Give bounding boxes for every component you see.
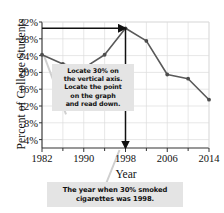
instruction-callout-line: on the graph <box>54 92 132 100</box>
y-tick-label: 28% <box>19 33 38 44</box>
instruction-callout: Locate 30% onthe vertical axis.Locate th… <box>52 64 134 111</box>
answer-callout-line: The year when 30% smoked <box>50 186 180 195</box>
instruction-callout-line: Locate 30% on <box>54 67 132 75</box>
y-tick-label: 8% <box>24 117 38 128</box>
x-axis-major-ticks <box>42 148 209 152</box>
answer-callout: The year when 30% smokedcigarettes was 1… <box>47 182 183 207</box>
x-axis-title: Year <box>115 168 136 180</box>
x-tick-label: 1998 <box>115 153 136 164</box>
y-tick-label: 32% <box>19 17 38 28</box>
y-tick-label: 16% <box>19 84 38 95</box>
instruction-callout-line: Locate the point <box>54 83 132 91</box>
y-tick-label: 4% <box>24 134 38 145</box>
y-tick-label: 20% <box>19 67 38 78</box>
instruction-callout-line: and read down. <box>54 100 132 108</box>
instruction-callout-line: the vertical axis. <box>54 75 132 83</box>
x-tick-label: 1990 <box>73 153 94 164</box>
y-tick-label: 24% <box>19 50 38 61</box>
answer-callout-line: cigarettes was 1998. <box>50 195 180 204</box>
x-tick-label: 2006 <box>157 153 178 164</box>
x-tick-label: 2014 <box>199 153 220 164</box>
x-tick-label: 1982 <box>32 153 53 164</box>
y-tick-label: 12% <box>19 101 38 112</box>
smoking-line-chart-figure: Percent of College Students 4%8%12%16%20… <box>0 0 224 213</box>
